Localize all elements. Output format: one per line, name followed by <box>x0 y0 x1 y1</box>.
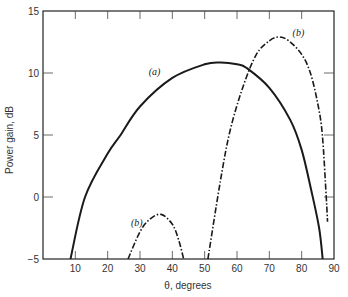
x-tick-label: 70 <box>264 263 276 274</box>
y-tick-label: 15 <box>28 6 40 17</box>
power-gain-chart: 102030405060708090−5051015 (a)(b)(b) θ, … <box>0 0 348 297</box>
y-tick-label: −5 <box>28 254 40 265</box>
curve-a-solid <box>70 62 322 259</box>
x-tick-label: 20 <box>102 263 114 274</box>
curve-annotation: (b) <box>293 27 305 39</box>
x-tick-label: 30 <box>134 263 146 274</box>
y-tick-label: 10 <box>28 68 40 79</box>
curve-annotation: (a) <box>149 66 161 78</box>
curve-annotation: (b) <box>131 217 143 229</box>
y-tick-label: 5 <box>33 130 39 141</box>
x-tick-label: 90 <box>328 263 340 274</box>
y-axis-label: Power gain, dB <box>4 106 15 174</box>
x-axis-label: θ, degrees <box>164 280 211 291</box>
data-curves <box>70 37 327 259</box>
x-tick-label: 60 <box>231 263 243 274</box>
x-tick-label: 50 <box>199 263 211 274</box>
plot-border <box>43 11 334 259</box>
axis-ticks: 102030405060708090−5051015 <box>28 6 340 275</box>
curve-b-dashdot <box>208 37 328 259</box>
x-tick-label: 40 <box>167 263 179 274</box>
x-tick-label: 10 <box>70 263 82 274</box>
x-tick-label: 80 <box>296 263 308 274</box>
plot-frame <box>43 11 334 259</box>
y-tick-label: 0 <box>33 192 39 203</box>
